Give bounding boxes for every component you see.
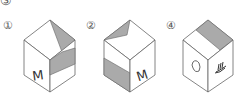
cube-option-2[interactable]: M (104, 20, 155, 92)
cube-diagram: M M (0, 0, 236, 102)
cube-option-1[interactable]: M (24, 20, 75, 92)
cube-option-4[interactable] (183, 20, 233, 92)
cube1-letter-m: M (31, 67, 44, 83)
